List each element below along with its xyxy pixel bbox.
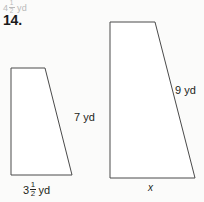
left-trapezoid-base-label: 312yd: [23, 181, 50, 198]
left-base-denominator: 2: [30, 189, 36, 198]
worksheet-figure-page: 412yd 14. 7 yd 312yd 9 yd x: [0, 0, 204, 202]
left-base-numerator: 1: [30, 181, 36, 189]
left-base-whole: 3: [23, 184, 29, 196]
left-trapezoid-shape: [11, 68, 72, 175]
left-base-unit: yd: [39, 184, 51, 196]
right-trapezoid-slant-label: 9 yd: [175, 84, 196, 96]
figures-canvas: [0, 0, 204, 202]
left-trapezoid-slant-label: 7 yd: [74, 111, 95, 123]
left-base-fraction: 12: [30, 181, 36, 198]
right-trapezoid-base-label: x: [148, 182, 153, 194]
right-trapezoid-shape: [110, 22, 195, 178]
